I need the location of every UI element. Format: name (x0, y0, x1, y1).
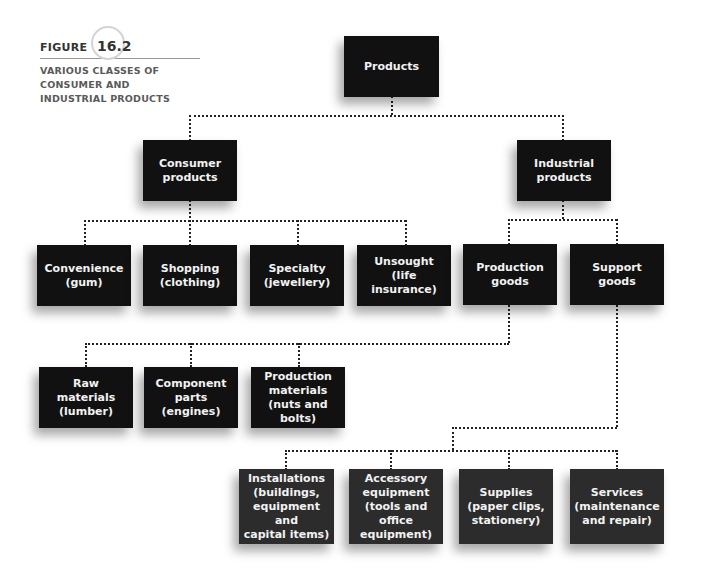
node-supplies: Supplies (paper clips, stationery) (459, 469, 553, 544)
node-shopping: Shopping (clothing) (143, 245, 237, 306)
node-services: Services (maintenance and repair) (570, 469, 664, 544)
node-label: Specialty (jewellery) (264, 262, 331, 290)
node-raw-materials: Raw materials (lumber) (39, 367, 133, 428)
connector (84, 220, 406, 222)
node-specialty: Specialty (jewellery) (250, 245, 344, 306)
node-unsought: Unsought (life insurance) (357, 245, 451, 306)
node-products: Products (344, 36, 439, 97)
node-label: Products (364, 60, 419, 74)
node-label: Production goods (476, 261, 544, 289)
node-label: Services (maintenance and repair) (574, 486, 659, 528)
node-label: Convenience (gum) (45, 262, 124, 290)
connector (189, 115, 564, 117)
connector (452, 427, 454, 450)
node-label: Industrial products (534, 157, 594, 185)
node-label: Consumer products (159, 157, 221, 185)
node-label: Production materials (nuts and bolts) (255, 370, 341, 426)
connector (508, 305, 510, 343)
node-label: Installations (buildings, equipment and … (243, 472, 330, 542)
figure-caption: VARIOUS CLASSES OF CONSUMER AND INDUSTRI… (40, 64, 200, 106)
node-label: Unsought (life insurance) (361, 255, 447, 297)
node-consumer-products: Consumer products (143, 140, 237, 201)
figure-word: FIGURE (40, 41, 87, 54)
node-label: Supplies (paper clips, stationery) (467, 486, 545, 528)
node-label: Support goods (592, 261, 642, 289)
connector (84, 220, 86, 246)
figure-label: FIGURE 16.2 VARIOUS CLASSES OF CONSUMER … (40, 38, 200, 106)
figure-caption-text: VARIOUS CLASSES OF CONSUMER AND INDUSTRI… (40, 65, 170, 104)
connector (508, 450, 510, 470)
connector (616, 450, 618, 470)
node-label: Shopping (clothing) (160, 262, 220, 290)
node-label: Component parts (engines) (156, 377, 227, 419)
node-convenience: Convenience (gum) (37, 245, 131, 306)
connector (562, 115, 564, 141)
connector (508, 219, 510, 245)
connector (85, 343, 509, 345)
connector (85, 343, 87, 367)
connector (298, 343, 300, 367)
figure-heading: FIGURE 16.2 (40, 38, 200, 59)
connector (616, 305, 618, 427)
connector (391, 96, 393, 115)
connector (285, 450, 617, 452)
connector (189, 200, 191, 246)
connector (390, 450, 392, 470)
connector (285, 450, 287, 470)
connector (190, 343, 192, 367)
node-label: Raw materials (lumber) (43, 377, 129, 419)
node-production-goods: Production goods (463, 244, 557, 305)
connector (189, 115, 191, 141)
connector (405, 220, 407, 246)
connector (297, 220, 299, 246)
node-production-materials: Production materials (nuts and bolts) (251, 367, 345, 428)
connector (452, 427, 617, 429)
connector (562, 200, 564, 219)
node-accessory-equipment: Accessory equipment (tools and office eq… (349, 469, 443, 544)
connector (616, 219, 618, 245)
figure-number: 16.2 (97, 38, 132, 54)
node-industrial-products: Industrial products (517, 140, 611, 201)
node-support-goods: Support goods (570, 244, 664, 305)
connector (508, 219, 617, 221)
node-label: Accessory equipment (tools and office eq… (360, 472, 432, 542)
node-installations: Installations (buildings, equipment and … (239, 469, 334, 544)
node-component-parts: Component parts (engines) (144, 367, 238, 428)
